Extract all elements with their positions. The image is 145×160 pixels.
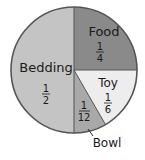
fraction-bowl-den: 12 (78, 112, 91, 123)
fraction-food-den: 4 (97, 53, 103, 64)
fraction-toy-den: 6 (105, 104, 111, 115)
label-toy: Toy (97, 76, 118, 90)
label-food: Food (88, 24, 119, 39)
fraction-toy-num: 1 (105, 92, 111, 103)
label-bowl: Bowl (93, 136, 122, 150)
fraction-bedding-num: 1 (43, 83, 49, 94)
fraction-bowl-num: 1 (81, 100, 87, 111)
pie-chart: Food 1 4 Bedding 1 2 Toy 1 6 1 12 Bowl (0, 0, 145, 160)
label-bedding: Bedding (19, 60, 73, 75)
fraction-food-num: 1 (97, 41, 103, 52)
fraction-bedding-den: 2 (43, 95, 49, 106)
